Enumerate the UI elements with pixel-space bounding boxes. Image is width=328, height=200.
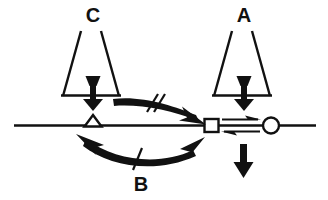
trapezoid-c-left-side <box>63 31 81 96</box>
load-arrow-a-head <box>234 99 254 111</box>
load-arrow-c-shaft <box>90 84 96 100</box>
square-marker <box>205 119 219 132</box>
label-c: C <box>86 4 100 26</box>
down-arrow-reaction <box>234 144 254 178</box>
trapezoid-c-right-side <box>101 31 119 96</box>
triangle-marker <box>85 115 102 127</box>
trapezoid-a-left-side <box>214 31 232 96</box>
load-arrow-a <box>234 76 254 111</box>
down-arrow-reaction-shaft <box>240 144 247 164</box>
load-arrow-c <box>83 76 103 111</box>
label-b: B <box>134 173 148 195</box>
load-arrow-c-head <box>83 99 103 111</box>
trapezoid-a-right-side <box>252 31 270 96</box>
schematic-diagram: C A <box>0 0 328 200</box>
circle-marker <box>263 118 279 134</box>
label-a: A <box>237 4 251 26</box>
diagram-canvas: C A <box>0 0 328 200</box>
curved-arrow-top-head <box>179 107 206 125</box>
load-arrow-a-shaft <box>241 84 247 100</box>
down-arrow-reaction-head <box>234 162 254 178</box>
